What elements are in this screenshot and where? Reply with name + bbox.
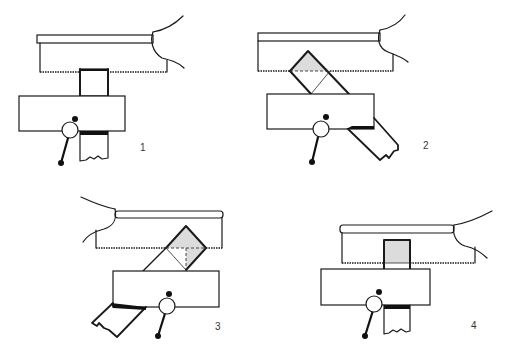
sawing-steps-diagram: 1 2: [0, 0, 511, 356]
saw-handle-top: [81, 197, 115, 209]
saw-blade-sides: [258, 41, 393, 71]
cut-guide-diagonal: [166, 248, 186, 270]
saw-back: [340, 225, 454, 233]
hacksaw-icon: [258, 15, 408, 71]
saw-handle: [152, 32, 184, 68]
workpiece-left-edge: [290, 71, 311, 94]
hacksaw-icon: [340, 211, 492, 263]
saw-handle-top: [153, 16, 183, 32]
vise-handle-knob-top: [323, 114, 329, 120]
vise-handle-knob-top: [166, 291, 172, 297]
vise-handle-knob-bottom: [362, 333, 368, 339]
hacksaw-icon: [37, 16, 184, 72]
vise-handle-knob-bottom: [155, 333, 161, 339]
panel-4: 4: [321, 211, 492, 339]
saw-blade-sides: [40, 43, 167, 72]
saw-handle: [453, 225, 487, 258]
saw-back: [258, 33, 380, 41]
cut-region-shaded: [384, 240, 410, 263]
panel-1: 1: [19, 16, 184, 166]
workpiece-left-edge: [143, 248, 166, 271]
panel-3: 3: [81, 197, 223, 339]
saw-back: [37, 35, 153, 43]
panel-label: 1: [140, 142, 146, 153]
panel-label: 4: [471, 320, 477, 331]
workpiece-clamp-edge: [80, 131, 108, 135]
saw-back: [115, 211, 223, 218]
saw-handle: [83, 209, 116, 242]
saw-handle-top: [380, 15, 405, 30]
vise-screw-pivot: [313, 121, 329, 137]
vise-handle-knob-top: [376, 289, 382, 295]
vise-handle-knob-top: [72, 116, 78, 122]
vise-handle-knob-bottom: [309, 159, 315, 165]
panel-label: 2: [423, 140, 429, 151]
panel-label: 3: [215, 321, 221, 332]
cut-guide-diagonal: [311, 71, 330, 94]
saw-handle-top: [454, 211, 492, 225]
workpiece-lower: [80, 131, 108, 161]
workpiece-clamp-edge: [384, 305, 410, 309]
cut-region-shaded: [166, 226, 206, 248]
workpiece-upper-edges: [290, 51, 349, 94]
hacksaw-icon: [81, 197, 223, 248]
vise-screw-pivot: [62, 122, 78, 138]
workpiece-lower: [384, 305, 410, 334]
workpiece-upper: [80, 69, 108, 96]
vise-handle-knob-bottom: [58, 160, 64, 166]
vise-screw-pivot: [159, 298, 175, 314]
panel-2: 2: [258, 15, 429, 165]
vise-screw-pivot: [366, 296, 382, 312]
